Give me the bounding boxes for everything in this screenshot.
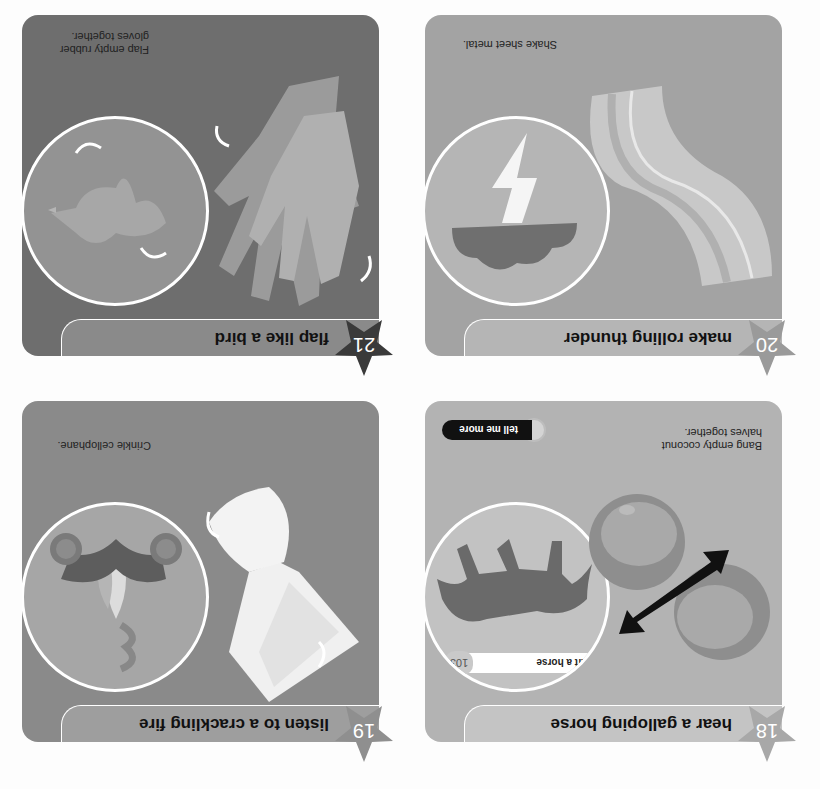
panel-21-title-bar: flap like a bird [61, 319, 379, 356]
panel-20-number: 20 [736, 333, 798, 356]
panel-18-title: hear a galloping horse [551, 714, 732, 734]
panel-20-number-star: 20 [736, 316, 798, 378]
panel-21: flap like a bird Flap empty rubber glove… [22, 15, 379, 356]
panel-19: listen to a crackling fire [22, 401, 379, 742]
page: hear a galloping horse 103 draft a horse [0, 0, 820, 789]
coconut-halves-icon [577, 492, 777, 662]
panel-21-title: flap like a bird [215, 328, 329, 348]
panel-20: make rolling thunder Shake sheet metal. … [425, 15, 782, 356]
rubber-gloves-icon [179, 66, 379, 316]
campfire-icon [24, 505, 206, 689]
panel-19-number: 19 [333, 719, 395, 742]
panel-18-number-star: 18 [736, 702, 798, 764]
panel-20-title-bar: make rolling thunder [464, 319, 782, 356]
panel-19-caption: Crinkle cellophane. [31, 439, 151, 452]
tell-me-more-label: tell me more [442, 420, 532, 440]
panel-19-number-star: 19 [333, 702, 395, 764]
cellophane-icon [189, 482, 379, 712]
panel-21-background: flap like a bird Flap empty rubber glove… [22, 15, 379, 356]
panel-19-background: listen to a crackling fire [22, 401, 379, 742]
lightning-cloud-icon [425, 119, 607, 303]
sheet-metal-icon [582, 76, 782, 306]
panel-18-background: hear a galloping horse 103 draft a horse [425, 401, 782, 742]
cross-reference-number: 103 [445, 651, 473, 675]
panel-18-title-bar: hear a galloping horse [464, 705, 782, 742]
panel-20-title: make rolling thunder [564, 328, 732, 348]
panel-18: hear a galloping horse 103 draft a horse [425, 401, 782, 742]
panel-20-background: make rolling thunder Shake sheet metal. [425, 15, 782, 356]
panel-18-number: 18 [736, 719, 798, 742]
panel-21-number: 21 [333, 333, 395, 356]
panel-21-caption: Flap empty rubber gloves together. [39, 30, 149, 56]
panel-19-title: listen to a crackling fire [139, 714, 329, 734]
panel-18-caption: Bang empty coconut halves together. [652, 426, 762, 452]
tell-me-more-button[interactable]: tell me more [442, 418, 546, 442]
panel-20-caption: Shake sheet metal. [437, 38, 557, 51]
panel-21-number-star: 21 [333, 316, 395, 378]
panel-19-speech-bubble [22, 502, 209, 692]
